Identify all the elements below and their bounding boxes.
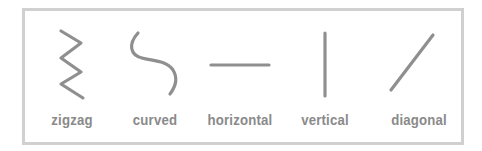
label-curved: curved [111, 111, 199, 128]
line-types-drawing [0, 0, 482, 151]
diagonal-line-icon [391, 35, 433, 90]
curved-line-icon [132, 33, 176, 94]
zigzag-line-icon [61, 31, 83, 98]
label-horizontal: horizontal [196, 111, 284, 128]
label-zigzag: zigzag [28, 111, 116, 128]
label-vertical: vertical [281, 111, 369, 128]
label-diagonal: diagonal [375, 111, 463, 128]
